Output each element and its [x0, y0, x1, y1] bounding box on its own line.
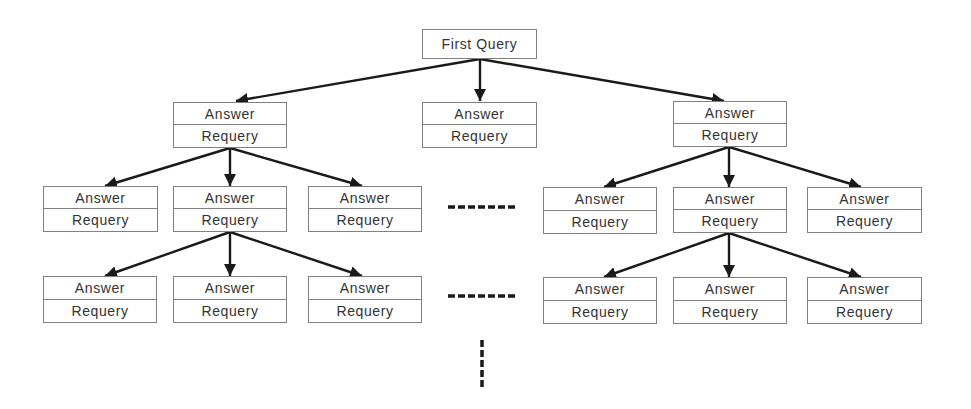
requery-label: Requery [44, 300, 156, 323]
answer-label: Answer [423, 103, 536, 125]
answer-node-l1-mid: Answer Requery [422, 102, 537, 148]
requery-label: Requery [544, 211, 656, 234]
answer-label: Answer [44, 277, 156, 300]
answer-node-l2-f: Answer Requery [807, 187, 922, 233]
answer-node-l2-a: Answer Requery [43, 186, 158, 232]
answer-label: Answer [808, 188, 921, 210]
requery-label: Requery [174, 300, 286, 323]
answer-label: Answer [309, 277, 421, 300]
arrow-root-to-right [480, 59, 724, 101]
answer-node-l2-d: Answer Requery [543, 187, 657, 234]
answer-label: Answer [44, 187, 157, 209]
answer-label: Answer [309, 187, 421, 209]
answer-label: Answer [174, 187, 286, 209]
requery-label: Requery [544, 301, 656, 324]
answer-label: Answer [544, 188, 656, 211]
requery-label: Requery [674, 124, 786, 146]
answer-label: Answer [174, 103, 286, 125]
answer-node-l3-f: Answer Requery [807, 277, 922, 324]
requery-label: Requery [808, 301, 921, 324]
answer-label: Answer [808, 278, 921, 301]
requery-label: Requery [674, 210, 786, 232]
arrow-l1right-to-l2f [729, 147, 861, 187]
requery-label: Requery [174, 125, 286, 147]
first-query-label: First Query [442, 36, 518, 52]
answer-label: Answer [174, 277, 286, 300]
answer-node-l2-e: Answer Requery [673, 187, 787, 233]
requery-label: Requery [309, 209, 421, 231]
requery-label: Requery [44, 209, 157, 231]
requery-label: Requery [174, 209, 286, 231]
arrow-l2b-to-l3a [105, 232, 230, 276]
answer-label: Answer [544, 278, 656, 301]
requery-label: Requery [309, 300, 421, 323]
answer-node-l2-b: Answer Requery [173, 186, 287, 232]
answer-label: Answer [674, 188, 786, 210]
requery-label: Requery [423, 125, 536, 147]
answer-node-l1-left: Answer Requery [173, 102, 287, 148]
answer-node-l3-d: Answer Requery [543, 277, 657, 324]
answer-node-l1-right: Answer Requery [673, 101, 787, 147]
answer-node-l3-b: Answer Requery [173, 276, 287, 323]
arrow-l2e-to-l3d [604, 233, 729, 277]
answer-node-l3-a: Answer Requery [43, 276, 157, 323]
arrow-root-to-left [236, 59, 480, 101]
answer-label: Answer [674, 102, 786, 124]
answer-node-l3-c: Answer Requery [308, 276, 422, 323]
arrow-l1left-to-l2a [105, 148, 230, 186]
requery-label: Requery [674, 301, 786, 324]
query-tree-diagram: First Query Answer Requery Answer Requer… [0, 0, 971, 409]
arrow-l1right-to-l2d [604, 147, 729, 187]
requery-label: Requery [808, 210, 921, 232]
answer-node-l3-e: Answer Requery [673, 277, 787, 324]
answer-label: Answer [674, 278, 786, 301]
arrow-l1left-to-l2c [230, 148, 362, 186]
arrow-l2e-to-l3f [729, 233, 861, 277]
first-query-node: First Query [422, 29, 537, 59]
answer-node-l2-c: Answer Requery [308, 186, 422, 232]
arrow-l2b-to-l3c [230, 232, 362, 276]
